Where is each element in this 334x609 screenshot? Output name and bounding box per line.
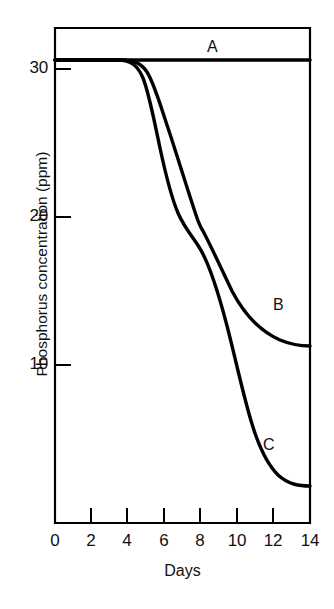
x-tick-label-14: 14 (295, 531, 325, 551)
y-axis-ticks (55, 69, 71, 365)
x-tick-label-8: 8 (185, 531, 215, 551)
series-label-b: B (273, 296, 284, 314)
x-axis-ticks (91, 508, 273, 523)
series-label-a: A (207, 38, 218, 56)
y-tick-label-30: 30 (14, 58, 48, 78)
x-tick-label-6: 6 (149, 531, 179, 551)
series-label-c: C (263, 436, 275, 454)
series-line-b (55, 60, 310, 346)
x-tick-label-2: 2 (76, 531, 106, 551)
x-tick-label-4: 4 (112, 531, 142, 551)
x-axis-title: Days (55, 562, 310, 580)
y-axis-title: Phosphorus concentration (ppm) (33, 134, 51, 394)
series-line-c (55, 60, 310, 486)
x-tick-label-12: 12 (258, 531, 288, 551)
x-tick-label-0: 0 (40, 531, 70, 551)
x-tick-label-10: 10 (222, 531, 252, 551)
chart-figure: 30 20 10 0 2 4 6 8 10 12 14 Phosphorus c… (0, 0, 334, 609)
